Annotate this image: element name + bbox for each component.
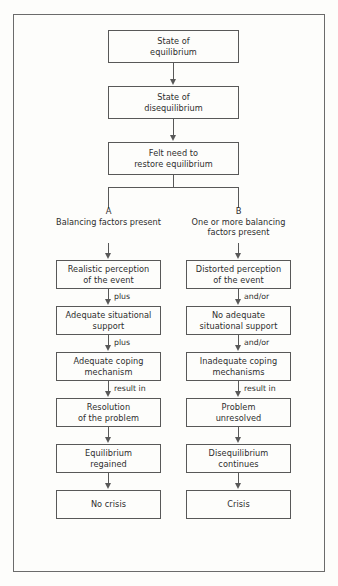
- node-line-1: Problem: [216, 402, 262, 412]
- connector-label-b-3: result in: [244, 384, 276, 393]
- branch-letter-b: B: [228, 206, 249, 216]
- fork-crossbar: [108, 187, 239, 188]
- node-line-1: State of: [150, 36, 197, 46]
- arrowhead-icon: [235, 299, 241, 305]
- node-line-1: Inadequate coping: [200, 356, 277, 366]
- node-no-adequate-situational-support: No adequate situational support: [186, 306, 291, 335]
- node-line-1: State of: [144, 92, 203, 102]
- node-line-1: Realistic perception: [68, 264, 150, 274]
- node-line-2: continues: [209, 459, 269, 469]
- node-line-1: Equilibrium: [85, 448, 132, 458]
- arrowhead-icon: [170, 79, 176, 85]
- node-problem-unresolved: Problem unresolved: [186, 398, 291, 427]
- branch-caption-b: One or more balancing factors present: [178, 217, 299, 238]
- fork-drop-left: [108, 187, 109, 208]
- flowchart-page: State of equilibrium State of disequilib…: [0, 0, 338, 586]
- branch-caption-a: Balancing factors present: [48, 217, 169, 227]
- node-line-1: Disequilibrium: [209, 448, 269, 458]
- node-realistic-perception: Realistic perception of the event: [56, 260, 161, 289]
- node-felt-need: Felt need to restore equilibrium: [108, 142, 239, 175]
- node-line-2: mechanisms: [200, 367, 277, 377]
- connector-label-a-2: plus: [114, 338, 130, 347]
- arrowhead-icon: [235, 253, 241, 259]
- node-line-2: of the event: [196, 275, 281, 285]
- node-distorted-perception: Distorted perception of the event: [186, 260, 291, 289]
- connector-label-b-1: and/or: [244, 292, 269, 301]
- arrowhead-icon: [105, 345, 111, 351]
- node-state-of-disequilibrium: State of disequilibrium: [108, 86, 239, 119]
- node-equilibrium-regained: Equilibrium regained: [56, 444, 161, 473]
- node-line-1: No adequate: [200, 310, 278, 320]
- arrowhead-icon: [235, 483, 241, 489]
- node-line-1: Distorted perception: [196, 264, 281, 274]
- arrowhead-icon: [105, 391, 111, 397]
- node-crisis: Crisis: [186, 490, 291, 519]
- node-adequate-coping-mechanism: Adequate coping mechanism: [56, 352, 161, 381]
- branch-caption-line-1: One or more balancing: [192, 217, 286, 227]
- node-line-2: support: [66, 321, 152, 331]
- arrowhead-icon: [105, 483, 111, 489]
- node-line-2: disequilibrium: [144, 103, 203, 113]
- node-line-2: of the problem: [78, 413, 139, 423]
- node-line-1: Felt need to: [134, 148, 213, 158]
- diagram-frame: State of equilibrium State of disequilib…: [13, 14, 325, 572]
- node-line-1: Crisis: [227, 499, 249, 509]
- arrowhead-icon: [235, 345, 241, 351]
- connector-label-a-1: plus: [114, 292, 130, 301]
- branch-letter-a: A: [98, 206, 119, 216]
- node-line-2: restore equilibrium: [134, 159, 213, 169]
- connector-label-b-2: and/or: [244, 338, 269, 347]
- node-line-2: situational support: [200, 321, 278, 331]
- connector-label-a-3: result in: [114, 384, 146, 393]
- branch-caption-line-2: present: [130, 217, 161, 227]
- branch-caption-line-2: factors present: [208, 227, 270, 237]
- node-state-of-equilibrium: State of equilibrium: [108, 30, 239, 63]
- arrowhead-icon: [105, 299, 111, 305]
- node-line-1: Resolution: [78, 402, 139, 412]
- node-disequilibrium-continues: Disequilibrium continues: [186, 444, 291, 473]
- arrowhead-icon: [235, 437, 241, 443]
- fork-drop-right: [238, 187, 239, 208]
- node-line-1: No crisis: [91, 499, 126, 509]
- node-line-2: mechanism: [73, 367, 143, 377]
- node-line-2: regained: [85, 459, 132, 469]
- node-adequate-situational-support: Adequate situational support: [56, 306, 161, 335]
- arrowhead-icon: [105, 437, 111, 443]
- node-line-2: equilibrium: [150, 47, 197, 57]
- node-inadequate-coping-mechanisms: Inadequate coping mechanisms: [186, 352, 291, 381]
- arrowhead-icon: [170, 135, 176, 141]
- node-line-1: Adequate situational: [66, 310, 152, 320]
- arrowhead-icon: [105, 253, 111, 259]
- node-line-1: Adequate coping: [73, 356, 143, 366]
- branch-caption-line-1: Balancing factors: [56, 217, 127, 227]
- node-line-2: of the event: [68, 275, 150, 285]
- arrowhead-icon: [235, 391, 241, 397]
- node-line-2: unresolved: [216, 413, 262, 423]
- node-resolution-of-the-problem: Resolution of the problem: [56, 398, 161, 427]
- node-no-crisis: No crisis: [56, 490, 161, 519]
